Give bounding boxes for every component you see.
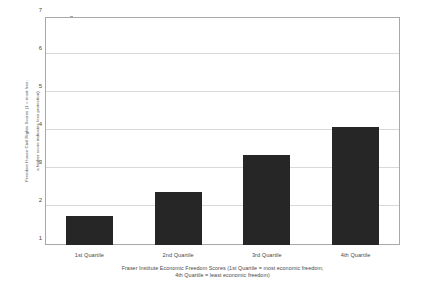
x-axis-tick-label: 2nd Quartile: [134, 251, 222, 259]
x-axis-caption: Fraser Institute Economic Freedom Scores…: [45, 265, 400, 280]
gridline: [46, 53, 399, 54]
y-axis-tick-label: 6: [28, 45, 42, 52]
y-axis-tick-label: 7: [28, 7, 42, 14]
gridlines: [46, 18, 399, 244]
x-axis-tick-label: 3rd Quartile: [223, 251, 311, 259]
x-axis-tick-label: 4th Quartile: [312, 251, 400, 259]
bar-chart-figure: Freedom House Civil Rights Scores (1 = m…: [0, 0, 426, 290]
x-axis-tick-labels: 1st Quartile2nd Quartile3rd Quartile4th …: [45, 251, 400, 261]
gridline: [46, 91, 399, 92]
y-axis-tick-label: 4: [28, 121, 42, 128]
y-axis-tick-label: 1: [28, 235, 42, 242]
y-axis-tick-label: 3: [28, 159, 42, 166]
gridline: [46, 129, 399, 130]
x-axis-caption-line-2: 4th Quartile = least economic freedom): [45, 272, 400, 279]
plot-area: [45, 17, 400, 245]
y-axis-tick-labels: 1234567: [28, 17, 42, 245]
x-axis-tick-label: 1st Quartile: [45, 251, 133, 259]
y-axis-tick-label: 2: [28, 197, 42, 204]
x-axis-caption-line-1: Fraser Institute Economic Freedom Scores…: [45, 265, 400, 272]
gridline: [46, 167, 399, 168]
gridline: [46, 205, 399, 206]
y-axis-tick-label: 5: [28, 83, 42, 90]
